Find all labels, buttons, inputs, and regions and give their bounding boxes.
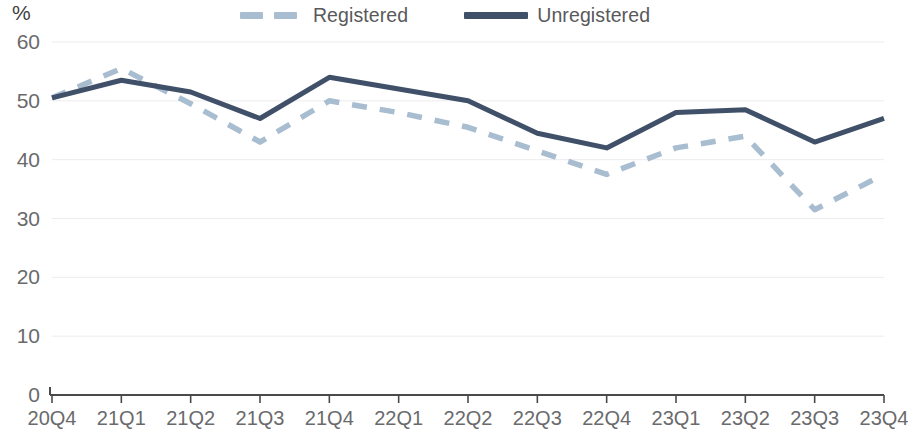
x-axis-tick-label: 23Q4 <box>860 408 908 428</box>
x-axis-tick-label: 21Q1 <box>97 408 146 428</box>
x-axis-tick-label: 23Q3 <box>790 408 839 428</box>
y-axis-unit-label: % <box>12 2 31 23</box>
x-axis-tick-label: 21Q3 <box>236 408 285 428</box>
y-axis-tick-label: 40 <box>0 149 40 170</box>
x-axis-tick-label: 23Q2 <box>721 408 770 428</box>
y-axis-tick-label: 50 <box>0 90 40 111</box>
x-axis-tick-label: 21Q2 <box>166 408 215 428</box>
y-axis-tick-label: 30 <box>0 208 40 229</box>
x-axis-tick-label: 22Q3 <box>513 408 562 428</box>
y-axis-tick-label: 10 <box>0 325 40 346</box>
y-axis-tick-label: 20 <box>0 266 40 287</box>
y-axis-tick-label: 0 <box>0 384 40 405</box>
x-axis-tick-label: 22Q4 <box>582 408 631 428</box>
x-axis-tick-label: 20Q4 <box>28 408 77 428</box>
x-axis-tick-label: 23Q1 <box>652 408 701 428</box>
x-axis-tick-label: 22Q1 <box>374 408 423 428</box>
x-axis-tick-label: 22Q2 <box>444 408 493 428</box>
series-line-unregistered <box>52 77 884 148</box>
y-axis-tick-label: 60 <box>0 31 40 52</box>
x-axis-tick-label: 21Q4 <box>305 408 354 428</box>
